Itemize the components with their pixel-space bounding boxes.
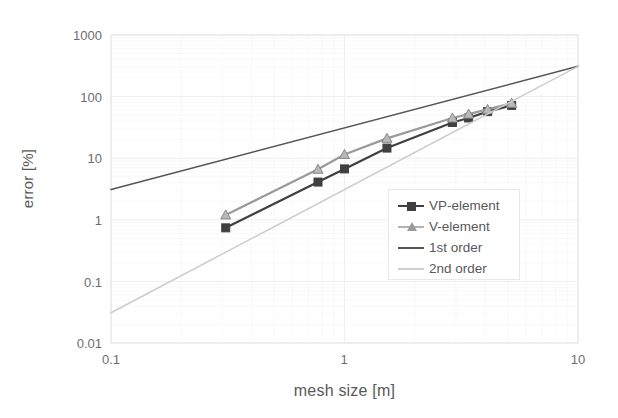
legend-item-vp-element: VP-element: [397, 195, 519, 216]
legend-item-1st-order: 1st order: [397, 237, 519, 258]
chart-figure: error [%] mesh size [m] 1000 100 10 1 0.…: [0, 0, 618, 418]
legend-item-v-element: V-element: [397, 216, 519, 237]
legend-label: 2nd order: [429, 261, 487, 276]
data-point-square: [222, 224, 230, 232]
plot-canvas: [0, 0, 618, 418]
legend-label: V-element: [429, 219, 490, 234]
legend-label: VP-element: [429, 198, 500, 213]
data-point-triangle: [313, 164, 323, 173]
line-dark-icon: [397, 241, 427, 255]
legend-label: 1st order: [429, 240, 482, 255]
legend-item-2nd-order: 2nd order: [397, 258, 519, 279]
line-light-icon: [397, 262, 427, 276]
data-point-square: [314, 178, 322, 186]
triangle-marker-icon: [397, 220, 427, 234]
square-marker-icon: [397, 199, 427, 213]
data-point-square: [341, 165, 349, 173]
chart-legend: VP-element V-element 1st order 2nd order: [388, 189, 520, 280]
data-point-square: [383, 144, 391, 152]
